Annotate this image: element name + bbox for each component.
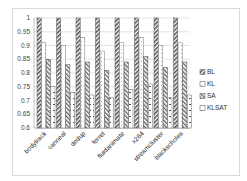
x-tick-label: canneal bbox=[46, 129, 67, 150]
x-tick-label: dedup bbox=[69, 129, 88, 148]
bar-bl-dedup bbox=[76, 18, 80, 128]
y-tick-label: 0.6 bbox=[21, 124, 30, 131]
y-tick-label: 0.7 bbox=[21, 97, 30, 104]
bar-klsat-dedup bbox=[90, 95, 94, 128]
legend-label: SA bbox=[207, 92, 216, 99]
bar-kl-fluidanimate bbox=[120, 43, 124, 128]
x-axis: bodytrackcannealdedupferretfluidanimatex… bbox=[23, 129, 185, 162]
bar-bl-canneal bbox=[57, 18, 61, 128]
bar-sa-streamcluster bbox=[163, 68, 167, 129]
bar-sa-x264 bbox=[144, 57, 148, 129]
y-tick-label: 0.85 bbox=[17, 55, 30, 62]
legend-label: KL bbox=[207, 80, 215, 87]
bar-klsat-canneal bbox=[70, 92, 74, 128]
bar-bl-blackscholes bbox=[174, 18, 178, 128]
bar-klsat-blackscholes bbox=[187, 95, 191, 128]
bar-sa-canneal bbox=[66, 65, 70, 128]
bar-kl-canneal bbox=[61, 46, 65, 129]
legend-label: KLSAT bbox=[207, 104, 227, 111]
bar-bl-bodytrack bbox=[37, 18, 41, 128]
bar-klsat-fluidanimate bbox=[129, 90, 133, 129]
bar-sa-bodytrack bbox=[46, 59, 50, 128]
bar-chart: 0.60.650.70.750.80.850.90.951 bodytrackc… bbox=[0, 0, 247, 181]
bar-sa-fluidanimate bbox=[124, 62, 128, 128]
y-tick-label: 0.8 bbox=[21, 69, 30, 76]
bar-kl-dedup bbox=[81, 37, 85, 128]
bar-kl-x264 bbox=[139, 37, 143, 128]
bar-bl-fluidanimate bbox=[115, 18, 119, 128]
bar-bl-ferret bbox=[96, 18, 100, 128]
bar-klsat-ferret bbox=[109, 98, 113, 128]
y-tick-label: 0.65 bbox=[17, 110, 30, 117]
bar-kl-streamcluster bbox=[159, 46, 163, 129]
legend: BLKLSAKLSAT bbox=[200, 68, 227, 111]
bar-klsat-bodytrack bbox=[51, 87, 55, 128]
bar-kl-bodytrack bbox=[42, 43, 46, 128]
bar-bl-streamcluster bbox=[154, 18, 158, 128]
x-tick-label: bodytrack bbox=[23, 129, 49, 155]
y-tick-label: 1 bbox=[26, 14, 30, 21]
bar-sa-blackscholes bbox=[183, 62, 187, 128]
bar-sa-ferret bbox=[105, 70, 109, 128]
legend-label: BL bbox=[207, 68, 215, 75]
y-tick-label: 0.9 bbox=[21, 42, 30, 49]
bar-sa-dedup bbox=[85, 62, 89, 128]
bar-klsat-x264 bbox=[148, 84, 152, 128]
legend-swatch-klsat bbox=[200, 106, 205, 111]
x-tick-label: ferret bbox=[90, 130, 106, 146]
bar-kl-blackscholes bbox=[178, 43, 182, 128]
legend-swatch-kl bbox=[200, 82, 205, 87]
y-tick-label: 0.95 bbox=[17, 28, 30, 35]
x-tick-label: x264 bbox=[130, 129, 145, 144]
legend-swatch-bl bbox=[200, 70, 205, 75]
bar-klsat-streamcluster bbox=[168, 98, 172, 128]
bar-kl-ferret bbox=[100, 51, 104, 128]
y-tick-label: 0.75 bbox=[17, 83, 30, 90]
bar-bl-x264 bbox=[135, 18, 139, 128]
legend-swatch-sa bbox=[200, 94, 205, 99]
